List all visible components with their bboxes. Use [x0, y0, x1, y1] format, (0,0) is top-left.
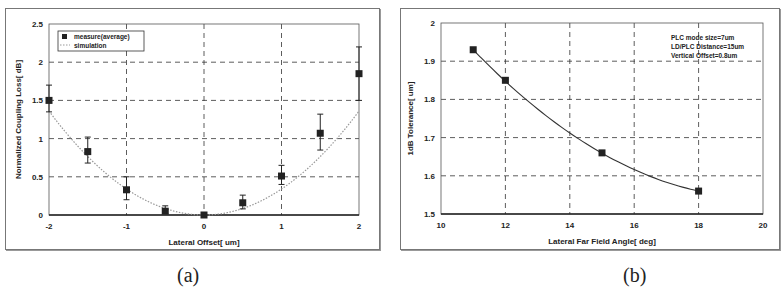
- y-tick-label: 1.5: [32, 96, 44, 105]
- x-tick-label: 12: [501, 221, 510, 230]
- tolerance-curve: [473, 50, 698, 191]
- data-point: [502, 77, 509, 84]
- y-tick-label: 1.6: [424, 172, 436, 181]
- legend: measure(average)simulation: [58, 31, 144, 51]
- y-tick-label: 1.9: [424, 57, 436, 66]
- annotation-text: Vertical Offset=0.8um: [671, 52, 738, 59]
- x-tick-label: -1: [123, 222, 131, 231]
- y-tick-label: 2.5: [32, 20, 44, 29]
- data-point: [84, 148, 91, 155]
- y-tick-label: 0: [39, 211, 44, 220]
- y-tick-label: 1.7: [424, 134, 436, 143]
- x-axis-label: Lateral Offset[ um]: [168, 238, 239, 247]
- data-point: [46, 97, 53, 104]
- x-axis-label: Lateral Far Field Angle[ deg]: [548, 237, 656, 246]
- x-tick-label: 18: [694, 221, 703, 230]
- tolerance-chart: 1012141618201.51.61.71.81.92Lateral Far …: [401, 9, 781, 251]
- y-tick-label: 2: [431, 19, 436, 28]
- data-point: [695, 188, 702, 195]
- data-point: [123, 186, 130, 193]
- data-point: [162, 208, 169, 215]
- data-point: [317, 130, 324, 137]
- y-tick-label: 1.8: [424, 95, 436, 104]
- annotation-text: PLC mode size=7um: [671, 34, 735, 41]
- data-point: [470, 46, 477, 53]
- legend-label: measure(average): [74, 33, 130, 41]
- annotation-text: LD/PLC Distance=15um: [671, 43, 744, 50]
- x-tick-label: 2: [357, 222, 362, 231]
- x-tick-label: 14: [565, 221, 574, 230]
- grid: [49, 24, 359, 215]
- x-tick-label: 16: [630, 221, 639, 230]
- y-axis-label: Normalized Coupling Loss[ dB]: [14, 60, 23, 179]
- x-tick-label: 10: [437, 221, 446, 230]
- y-tick-label: 1.5: [424, 210, 436, 219]
- caption-b: (b): [623, 264, 646, 287]
- x-tick-label: 20: [759, 221, 768, 230]
- chart-panel-a: -2-101200.511.522.5Lateral Offset[ um]No…: [5, 8, 380, 250]
- legend-marker-icon: [62, 34, 67, 39]
- data-point: [201, 212, 208, 219]
- legend-label: simulation: [74, 42, 107, 49]
- caption-a: (a): [177, 264, 199, 287]
- chart-panel-b: 1012141618201.51.61.71.81.92Lateral Far …: [400, 8, 780, 250]
- y-tick-label: 2: [39, 58, 44, 67]
- x-tick-label: 1: [279, 222, 284, 231]
- y-tick-label: 1: [39, 135, 44, 144]
- y-axis-label: 1dB Tolerance[ um]: [406, 81, 415, 155]
- data-point: [239, 199, 246, 206]
- x-tick-label: 0: [202, 222, 207, 231]
- y-tick-label: 0.5: [32, 173, 44, 182]
- data-point: [356, 70, 363, 77]
- coupling-loss-chart: -2-101200.511.522.5Lateral Offset[ um]No…: [6, 9, 381, 251]
- data-point: [599, 149, 606, 156]
- data-point: [278, 173, 285, 180]
- x-tick-label: -2: [45, 222, 53, 231]
